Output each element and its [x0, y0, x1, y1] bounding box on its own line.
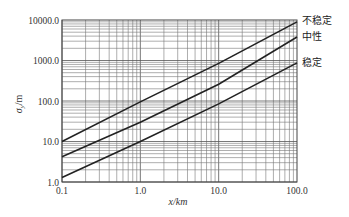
series-label-unstable: 不稳定 — [302, 14, 332, 26]
grid — [62, 20, 297, 182]
x-tick-labels: 0.11.010.0100.0 — [56, 186, 308, 196]
y-axis-title: σy/m — [13, 94, 26, 113]
svg-text:σy/m: σy/m — [13, 94, 26, 113]
series-label-stable: 稳定 — [302, 56, 322, 68]
x-tick-label: 10.0 — [210, 186, 227, 196]
dispersion-chart: 1.010.0100.01000.010000.0 0.11.010.0100.… — [0, 0, 349, 217]
y-tick-label: 1000.0 — [33, 56, 59, 66]
y-tick-labels: 1.010.0100.01000.010000.0 — [28, 16, 59, 188]
y-axis-unit: /m — [13, 94, 24, 105]
series-label-neutral: 中性 — [302, 30, 322, 42]
y-tick-label: 10000.0 — [28, 16, 59, 26]
series-line-2 — [62, 63, 297, 177]
x-tick-label: 1.0 — [134, 186, 146, 196]
y-tick-label: 10.0 — [42, 137, 59, 147]
series-lines — [62, 22, 297, 178]
x-axis-title: x/km — [168, 196, 188, 207]
x-tick-label: 0.1 — [56, 186, 68, 196]
x-tick-label: 100.0 — [286, 186, 308, 196]
series-line-1 — [62, 37, 297, 157]
y-tick-label: 100.0 — [38, 97, 60, 107]
